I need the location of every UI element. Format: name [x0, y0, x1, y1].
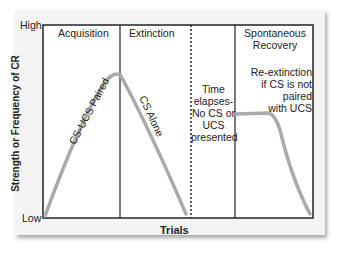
phase-extinction: Extinction — [129, 27, 175, 39]
phase-spontaneous: SpontaneousRecovery — [240, 27, 310, 51]
y-low: Low — [22, 212, 41, 224]
phase-acquisition: Acquisition — [58, 27, 109, 39]
y-high: High — [20, 19, 42, 31]
y-axis-label: Strength or Frequency of CR — [10, 49, 21, 199]
time-note: Timeelapses-No CS orUCSpresented — [191, 83, 236, 143]
re-extinction-note: Re-extinctionif CS is notpairedwith UCS — [240, 66, 312, 114]
x-axis-label: Trials — [160, 224, 189, 236]
